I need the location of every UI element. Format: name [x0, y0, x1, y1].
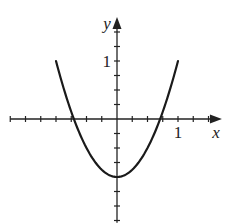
chart: 1 1 x y — [0, 0, 225, 223]
y-axis-arrow-icon — [113, 17, 122, 29]
x-axis-label: x — [211, 123, 220, 142]
y-axis-label: y — [101, 14, 111, 33]
x-tick-label-1: 1 — [174, 123, 183, 142]
y-tick-label-1: 1 — [103, 52, 112, 71]
